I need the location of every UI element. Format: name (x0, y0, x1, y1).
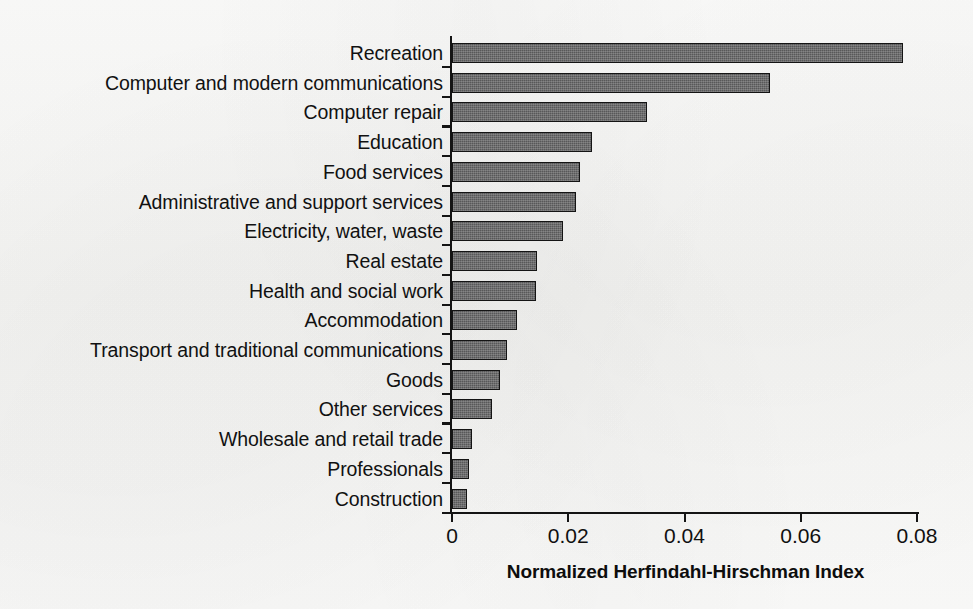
x-axis-tick-label: 0 (446, 524, 458, 548)
bar (452, 162, 580, 182)
category-label: Health and social work (249, 276, 452, 306)
x-axis-tick-label: 0.06 (780, 524, 821, 548)
y-axis-tick (442, 333, 451, 335)
bar (452, 310, 517, 330)
category-label: Wholesale and retail trade (219, 424, 452, 454)
y-axis-tick (442, 393, 451, 395)
bar (452, 221, 563, 241)
bar (452, 399, 492, 419)
bar-row: Other services (0, 394, 973, 424)
bar (452, 459, 469, 479)
bar-row: Professionals (0, 454, 973, 484)
category-label: Computer repair (304, 97, 452, 127)
bar (452, 281, 536, 301)
category-label: Transport and traditional communications (90, 335, 452, 365)
bar-row: Computer repair (0, 97, 973, 127)
chart-page: RecreationComputer and modern communicat… (0, 0, 973, 609)
bar-row: Health and social work (0, 276, 973, 306)
y-axis-tick (442, 66, 451, 68)
horizontal-bar-chart: RecreationComputer and modern communicat… (0, 0, 973, 609)
y-axis-tick (442, 185, 451, 187)
bar (452, 43, 903, 63)
x-axis-title: Normalized Herfindahl-Hirschman Index (452, 561, 919, 583)
bar (452, 429, 472, 449)
x-axis-tick-label: 0.08 (897, 524, 938, 548)
category-label: Real estate (345, 246, 452, 276)
x-axis-tick (800, 513, 802, 522)
category-label: Other services (319, 394, 452, 424)
bar (452, 192, 576, 212)
bar (452, 102, 647, 122)
y-axis-tick (442, 512, 451, 514)
y-axis-tick (442, 363, 451, 365)
y-axis-tick (442, 482, 451, 484)
bar (452, 132, 592, 152)
bar-row: Education (0, 127, 973, 157)
y-axis-tick (442, 304, 451, 306)
x-axis-tick (684, 513, 686, 522)
category-label: Construction (335, 484, 452, 514)
category-label: Food services (323, 157, 452, 187)
bar-row: Administrative and support services (0, 187, 973, 217)
bar-row: Goods (0, 365, 973, 395)
bar-row: Computer and modern communications (0, 68, 973, 98)
category-label: Electricity, water, waste (244, 216, 452, 246)
category-label: Computer and modern communications (105, 68, 452, 98)
bar-row: Wholesale and retail trade (0, 424, 973, 454)
x-axis-tick (916, 513, 918, 522)
category-label: Accommodation (304, 305, 452, 335)
category-label: Goods (386, 365, 452, 395)
bar (452, 73, 770, 93)
bar-row: Construction (0, 484, 973, 514)
y-axis-tick (442, 215, 451, 217)
y-axis-tick (442, 96, 451, 98)
bar (452, 370, 500, 390)
bar-row: Electricity, water, waste (0, 216, 973, 246)
bar (452, 251, 537, 271)
y-axis-tick (442, 422, 451, 424)
y-axis-tick (442, 155, 451, 157)
y-axis-tick (442, 125, 451, 127)
category-label: Recreation (350, 38, 452, 68)
bar-row: Real estate (0, 246, 973, 276)
category-label: Professionals (327, 454, 452, 484)
bar (452, 340, 507, 360)
bar-row: Recreation (0, 38, 973, 68)
category-label: Education (357, 127, 452, 157)
x-axis-tick (451, 513, 453, 522)
y-axis-tick (442, 274, 451, 276)
bar-row: Accommodation (0, 305, 973, 335)
bar-row: Transport and traditional communications (0, 335, 973, 365)
y-axis-tick (442, 452, 451, 454)
x-axis-tick (567, 513, 569, 522)
y-axis-tick (442, 244, 451, 246)
x-axis-tick-label: 0.02 (548, 524, 589, 548)
bar-row: Food services (0, 157, 973, 187)
category-label: Administrative and support services (139, 187, 452, 217)
bar (452, 489, 467, 509)
x-axis-tick-label: 0.04 (664, 524, 705, 548)
